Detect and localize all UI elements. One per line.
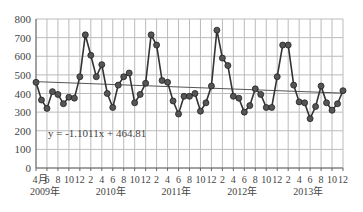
data-point bbox=[291, 82, 297, 88]
data-point bbox=[329, 107, 335, 113]
data-point bbox=[99, 62, 105, 68]
data-point bbox=[132, 100, 138, 106]
data-point bbox=[340, 88, 346, 94]
data-point bbox=[66, 94, 72, 100]
data-point bbox=[82, 32, 88, 38]
data-point bbox=[126, 70, 132, 76]
data-point bbox=[176, 111, 182, 117]
data-point bbox=[258, 91, 264, 97]
y-tick-label: 700 bbox=[15, 32, 32, 44]
data-point bbox=[313, 104, 319, 110]
data-point bbox=[324, 100, 330, 106]
chart-canvas: 0100200300400500600700800 4月681012246810… bbox=[0, 0, 363, 212]
x-tick-label: 10 bbox=[64, 174, 74, 185]
x-tick-label: 2 bbox=[286, 174, 291, 185]
x-tick-label: 10 bbox=[195, 174, 205, 185]
x-tick-label: 8 bbox=[319, 174, 324, 185]
data-point bbox=[170, 98, 176, 104]
x-tick-label: 12 bbox=[272, 174, 282, 185]
data-point bbox=[71, 95, 77, 101]
data-point bbox=[121, 74, 127, 80]
data-point bbox=[241, 109, 247, 115]
y-tick-label: 800 bbox=[15, 13, 32, 25]
data-point bbox=[115, 82, 121, 88]
x-tick-label: 12 bbox=[338, 174, 348, 185]
x-tick-label: 8 bbox=[55, 174, 60, 185]
data-point bbox=[33, 79, 39, 85]
x-tick-label: 8 bbox=[121, 174, 126, 185]
data-point bbox=[44, 105, 50, 111]
data-point bbox=[93, 74, 99, 80]
data-point bbox=[187, 93, 193, 99]
data-point bbox=[192, 91, 198, 97]
data-point bbox=[335, 101, 341, 107]
y-tick-label: 400 bbox=[15, 88, 32, 100]
x-tick-label: 10 bbox=[261, 174, 271, 185]
y-tick-label: 200 bbox=[15, 125, 32, 137]
year-label: 2013年 bbox=[293, 185, 323, 197]
x-tick-label: 6 bbox=[176, 174, 181, 185]
data-point bbox=[225, 63, 231, 69]
year-label: 2012年 bbox=[227, 185, 257, 197]
x-tick-label: 2 bbox=[154, 174, 159, 185]
data-point bbox=[49, 89, 55, 95]
data-point bbox=[269, 104, 275, 110]
data-point bbox=[307, 116, 313, 122]
data-point bbox=[236, 95, 242, 101]
data-point bbox=[88, 52, 94, 58]
year-label: 2009年 bbox=[30, 185, 60, 197]
x-tick-label: 4 bbox=[165, 174, 170, 185]
x-tick-label: 6 bbox=[44, 174, 49, 185]
x-tick-label: 8 bbox=[187, 174, 192, 185]
data-point bbox=[143, 80, 149, 86]
data-point bbox=[247, 103, 253, 109]
data-point bbox=[214, 27, 220, 33]
data-point bbox=[296, 99, 302, 105]
y-tick-label: 500 bbox=[15, 69, 32, 81]
line-chart: 0100200300400500600700800 4月681012246810… bbox=[0, 0, 363, 212]
data-point bbox=[55, 91, 61, 97]
year-label: 2010年 bbox=[96, 185, 126, 197]
data-point bbox=[219, 55, 225, 61]
data-point bbox=[60, 101, 66, 107]
data-point bbox=[285, 42, 291, 48]
x-tick-label: 12 bbox=[75, 174, 85, 185]
x-tick-label: 12 bbox=[206, 174, 216, 185]
x-tick-label: 6 bbox=[110, 174, 115, 185]
data-point bbox=[137, 91, 143, 97]
x-tick-label: 2 bbox=[88, 174, 93, 185]
data-point bbox=[197, 108, 203, 114]
y-tick-label: 0 bbox=[26, 162, 32, 174]
data-point bbox=[154, 42, 160, 48]
data-point bbox=[104, 91, 110, 97]
x-axis: 4月68101224681012246810122468101224681012… bbox=[30, 168, 348, 197]
data-point bbox=[302, 100, 308, 106]
x-tick-label: 4 bbox=[99, 174, 104, 185]
x-tick-label: 6 bbox=[308, 174, 313, 185]
y-tick-label: 100 bbox=[15, 143, 32, 155]
x-tick-label: 12 bbox=[141, 174, 151, 185]
x-tick-label: 8 bbox=[253, 174, 258, 185]
data-point bbox=[38, 97, 44, 103]
y-tick-label: 600 bbox=[15, 50, 32, 62]
x-tick-label: 4 bbox=[231, 174, 236, 185]
data-point bbox=[110, 104, 116, 110]
x-tick-label: 2 bbox=[220, 174, 225, 185]
data-point bbox=[203, 100, 209, 106]
x-tick-label: 10 bbox=[327, 174, 337, 185]
data-point bbox=[165, 79, 171, 85]
data-point bbox=[274, 74, 280, 80]
x-tick-label: 4 bbox=[297, 174, 302, 185]
data-point bbox=[148, 32, 154, 38]
data-point bbox=[77, 74, 83, 80]
y-tick-label: 300 bbox=[15, 106, 32, 118]
y-axis: 0100200300400500600700800 bbox=[15, 13, 37, 174]
x-tick-label: 6 bbox=[242, 174, 247, 185]
trendline-equation: y = -1.1011x + 464.81 bbox=[48, 127, 146, 139]
year-label: 2011年 bbox=[162, 185, 192, 197]
data-point bbox=[208, 83, 214, 89]
data-point bbox=[252, 86, 258, 92]
data-point bbox=[318, 83, 324, 89]
x-tick-label: 10 bbox=[130, 174, 140, 185]
